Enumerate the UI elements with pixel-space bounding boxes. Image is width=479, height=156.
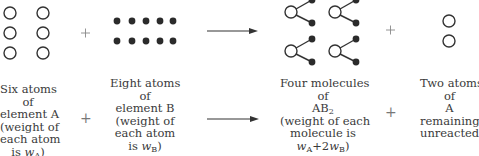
weight-b: is wB) <box>110 140 180 153</box>
element-a-atoms <box>4 7 49 59</box>
molecule-1 <box>285 0 315 26</box>
label-product-ab2: Four molecules of AB2 (weight of each mo… <box>280 77 366 153</box>
molecule-3 <box>285 36 315 66</box>
element-b-atoms <box>114 18 177 45</box>
leftover-a-atoms <box>443 15 455 47</box>
plus-sign-2 <box>386 26 395 35</box>
label-reactant-b: Eight atoms of element B (weight of each… <box>110 77 180 153</box>
weight-a: is wA) <box>0 146 56 156</box>
label-leftover-a: Two atoms of A remaining unreacted <box>420 77 479 140</box>
molecule-4 <box>329 36 359 66</box>
molecule-2 <box>329 0 359 26</box>
label-reactant-a: Six atoms of element A (weight of each a… <box>0 83 56 156</box>
plus-label-1: + <box>80 110 92 126</box>
weight-ab2: wA+2wB) <box>280 140 366 153</box>
reaction-diagram-top <box>0 0 479 80</box>
ab2-molecules <box>285 0 359 65</box>
plus-label-2: + <box>385 104 397 120</box>
plus-sign-1 <box>81 29 90 38</box>
reaction-arrow-top <box>207 28 258 34</box>
formula-ab2: AB2 <box>280 102 366 115</box>
